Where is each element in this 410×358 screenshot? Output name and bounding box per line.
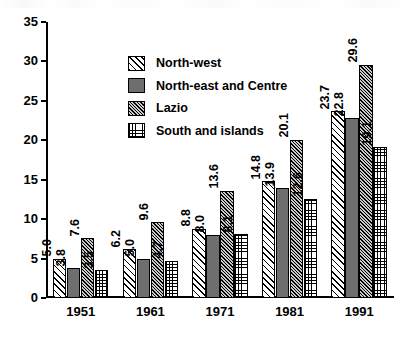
bar-value-label: 3.8 [61, 257, 74, 274]
bar-value-label: 8.0 [200, 224, 213, 241]
bar: 20.1 [290, 140, 303, 299]
bar: 23.7 [331, 111, 344, 298]
bar: 22.8 [345, 118, 358, 298]
bar: 19.1 [373, 147, 386, 298]
y-tick-label: 30 [4, 56, 38, 66]
y-tick-label: 15 [4, 175, 38, 185]
bar: 13.9 [276, 188, 289, 298]
legend-swatch-north-east-and-centre [128, 78, 145, 93]
bar: 3.8 [67, 268, 80, 298]
y-tick-label: 10 [4, 214, 38, 224]
legend-label-south-and-islands: South and islands [156, 124, 264, 138]
legend-swatch-north-west [128, 56, 145, 71]
bar-value-label: 8.1 [228, 223, 241, 240]
bar: 5.0 [137, 259, 150, 298]
x-tick-label: 1951 [66, 304, 95, 319]
legend-item-south-and-islands: South and islands [128, 120, 328, 143]
bar: 29.6 [359, 65, 372, 298]
legend-label-north-east-and-centre: North-east and Centre [156, 79, 287, 93]
legend-label-lazio: Lazio [156, 101, 188, 115]
bar-value-label: 7.6 [75, 227, 88, 244]
legend-item-north-east-and-centre: North-east and Centre [128, 75, 328, 98]
bar-value-label: 19.1 [368, 133, 381, 157]
plot-area: 05101520253035 19511961197119811991 5.03… [46, 22, 394, 298]
bar-value-label: 9.6 [145, 212, 158, 229]
bar: 3.5 [95, 270, 108, 298]
bar: 8.0 [206, 235, 219, 298]
x-tick-label: 1981 [275, 304, 304, 319]
bar-value-label: 22.8 [340, 104, 353, 128]
x-tick-label: 1971 [206, 304, 235, 319]
bar-value-label: 13.9 [270, 174, 283, 198]
bar-value-label: 29.6 [354, 50, 367, 74]
bar: 14.8 [262, 181, 275, 298]
legend-item-north-west: North-west [128, 52, 328, 75]
y-tick-label: 25 [4, 96, 38, 106]
bar-group: 5.03.87.63.5 [46, 22, 116, 298]
legend-item-lazio: Lazio [128, 97, 328, 120]
bar: 13.6 [220, 191, 233, 298]
y-tick-label: 35 [4, 17, 38, 27]
legend-label-north-west: North-west [156, 56, 221, 70]
bar-value-label: 3.5 [89, 260, 102, 277]
bar: 8.1 [234, 234, 247, 298]
legend-swatch-lazio [128, 101, 145, 116]
bar-value-label: 13.6 [214, 177, 227, 201]
x-tick-label: 1991 [345, 304, 374, 319]
y-tick-label: 0 [4, 293, 38, 303]
bar-value-label: 12.6 [298, 184, 311, 208]
y-tick-label: 20 [4, 135, 38, 145]
bar-chart: 05101520253035 19511961197119811991 5.03… [0, 0, 410, 358]
legend: North-west North-east and Centre Lazio S… [128, 52, 328, 142]
bar: 4.7 [165, 261, 178, 298]
y-tick-label: 5 [4, 254, 38, 264]
bar-value-label: 4.7 [159, 250, 172, 267]
bar: 12.6 [304, 199, 317, 298]
top-edge-artifact [0, 0, 410, 8]
bar-group: 23.722.829.619.1 [324, 22, 394, 298]
bar-value-label: 5.0 [131, 248, 144, 265]
x-tick-label: 1961 [136, 304, 165, 319]
legend-swatch-south-and-islands [128, 123, 145, 138]
